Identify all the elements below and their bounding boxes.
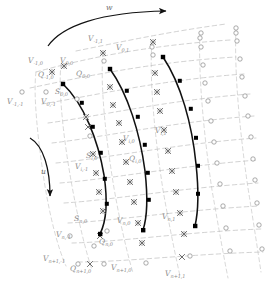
blade-curve-1 [63, 84, 106, 234]
lbl-v-n-1: Vn,1 [162, 213, 175, 220]
lbl-v-np1-1: Vn+1,1 [165, 270, 185, 277]
lbl-v-0-1-base: V [116, 43, 121, 52]
lbl-v-n-1-sub: n,1 [168, 216, 176, 222]
lbl-v-np1-0: Vn+1,0 [111, 264, 131, 271]
lbl-v-i-0-base: V [123, 134, 128, 143]
lbl-v-np1-m1: Vn+1,-1 [43, 255, 65, 262]
lbl-q-0-0-sub: 0,0 [82, 73, 90, 79]
lbl-u: u [41, 168, 46, 176]
lbl-v-n-m1-base: V [56, 230, 61, 239]
lbl-v-np1-1-base: V [165, 269, 170, 278]
lbl-v-i-m1-base: V [75, 162, 80, 171]
lbl-v-np1-0-base: V [111, 263, 116, 272]
lbl-v-i-1: Vi,1 [155, 127, 166, 134]
lbl-q-m1-0: Q-1,0 [38, 71, 53, 78]
lbl-s-n-0: Sn,0 [74, 215, 87, 222]
lbl-v-n-0-sub: n,0 [123, 220, 131, 226]
lbl-v-n-m1-sub: n,-1 [62, 234, 71, 240]
lbl-v-m1-m1-sub: -1,-1 [13, 101, 24, 107]
lbl-q-np1-0-sub: n+1,0 [76, 268, 91, 274]
lbl-q-m1-0-sub: -1,0 [44, 74, 53, 80]
lbl-v-np1-1-sub: n+1,1 [171, 273, 186, 279]
lbl-v-m1-1: V-1,1 [88, 35, 103, 42]
lbl-v-m1-m1: V-1,-1 [7, 98, 23, 105]
lbl-q-0-0: Q0,0 [76, 70, 90, 77]
lbl-s-i-0: Si,0 [86, 152, 97, 159]
lbl-q-i-0: Qi,0 [129, 155, 141, 162]
lbl-q-i-0-sub: i,0 [135, 158, 141, 164]
lbl-v-0-m1: V0,-1 [41, 98, 56, 105]
lbl-v-0-m1-base: V [41, 97, 46, 106]
lbl-v-np1-m1-sub: n+1,-1 [49, 258, 65, 264]
lbl-v-i-1-base: V [155, 126, 160, 135]
lbl-v-n-1-base: V [162, 212, 167, 221]
lbl-v-0-0-sub: 0,0 [66, 60, 74, 66]
lbl-s-n-0-sub: n,0 [79, 218, 87, 224]
u-arrow [30, 138, 50, 196]
w-arrow [48, 11, 166, 46]
lbl-s-0-0: S0,0 [55, 88, 68, 95]
lbl-v-n-0: Vn,0 [117, 217, 130, 224]
lbl-v-m1-0-sub: -1,0 [34, 60, 43, 66]
lbl-v-n-m1: Vn,-1 [56, 231, 71, 238]
blade-curves [63, 57, 198, 234]
lbl-v-i-m1-sub: i,-1 [81, 166, 89, 172]
lbl-v-0-m1-sub: 0,-1 [47, 101, 56, 107]
lbl-q-np1-0: Qn+1,0 [70, 265, 91, 272]
lbl-s-i-0-sub: i,0 [91, 155, 97, 161]
lbl-q-n-0-sub: n,0 [105, 241, 113, 247]
lbl-v-i-0-sub: i,0 [129, 138, 135, 144]
lbl-q-n-0: Qn,0 [99, 238, 113, 245]
lbl-v-0-0-base: V [60, 56, 65, 65]
lbl-v-np1-0-sub: n+1,0 [117, 267, 132, 273]
lbl-v-i-1-sub: i,1 [161, 130, 167, 136]
lbl-v-m1-0: V-1,0 [28, 57, 43, 64]
lbl-v-np1-m1-base: V [43, 254, 48, 263]
lbl-v-i-0: Vi,0 [123, 135, 134, 142]
blade-curve-2 [110, 69, 147, 230]
lbl-v-n-0-base: V [117, 216, 122, 225]
figure-canvas: wuV-1,1V0,1V-1,0V0,0Q-1,0Q0,0S0,0V-1,-1V… [0, 0, 267, 286]
lbl-s-0-0-sub: 0,0 [60, 91, 68, 97]
lbl-v-m1-1-base: V [88, 34, 93, 43]
lbl-v-i-m1: Vi,-1 [75, 163, 88, 170]
lbl-w: w [106, 4, 113, 12]
lbl-v-0-0: V0,0 [60, 57, 73, 64]
lbl-v-m1-0-base: V [28, 56, 33, 65]
lbl-v-m1-m1-base: V [7, 97, 12, 106]
lbl-v-0-1: V0,1 [116, 44, 129, 51]
blade-nodes [61, 55, 200, 236]
lbl-v-m1-1-sub: -1,1 [94, 38, 103, 44]
lbl-v-0-1-sub: 0,1 [122, 47, 130, 53]
